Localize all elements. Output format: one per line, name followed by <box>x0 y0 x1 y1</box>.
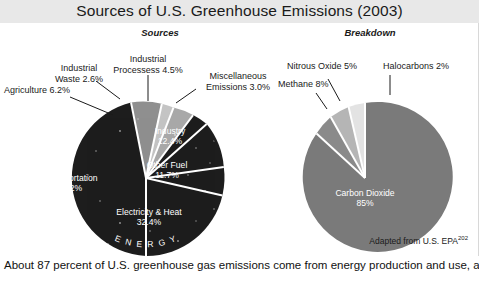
slice-label-other-fuel: Other Fuel 11.7% <box>136 160 198 180</box>
attribution-footnote-number: 202 <box>458 235 468 241</box>
callout-halocarbons: Halocarbons 2% <box>370 61 462 72</box>
chart-panel: Sources Breakdown <box>0 23 479 256</box>
slice-label-industry-value: 12.4% <box>140 136 200 146</box>
attribution: Adapted from U.S. EPA202 <box>369 235 468 246</box>
callout-industrial-processes-line2: Processess 4.5% <box>108 65 188 76</box>
slice-label-other-fuel-value: 11.7% <box>136 170 198 180</box>
slice-label-transportation-name: Transportation <box>42 173 97 183</box>
slice-label-industry: Industry 12.4% <box>140 126 200 146</box>
slice-label-carbon-dioxide: Carbon Dioxide 85% <box>320 188 410 208</box>
callout-industrial-waste: Industrial Waste 2.6% <box>44 63 114 84</box>
slice-label-industry-name: Industry <box>155 126 186 136</box>
callout-methane: Methane 8% <box>278 79 329 90</box>
slice-label-transportation: Transportation 27.2% <box>30 173 110 193</box>
slice-label-electricity-heat-value: 32.4% <box>98 217 200 227</box>
breakdown-pie <box>303 102 453 252</box>
slice-label-transportation-value: 27.2% <box>30 183 110 193</box>
figure-caption: About 87 percent of U.S. greenhouse gas … <box>0 258 479 273</box>
figure-container: Sources of U.S. Greenhouse Emissions (20… <box>0 0 479 281</box>
slice-label-electricity-heat-name: Electricity & Heat <box>116 207 181 217</box>
callout-industrial-waste-line1: Industrial <box>44 63 114 74</box>
pie-charts-graphic: E N E R G Y <box>0 23 479 256</box>
callout-miscellaneous-line2: Emissions 3.0% <box>196 82 280 93</box>
slice-label-carbon-dioxide-name: Carbon Dioxide <box>335 188 394 198</box>
callout-industrial-processes: Industrial Processess 4.5% <box>108 54 188 75</box>
slice-label-carbon-dioxide-value: 85% <box>320 198 410 208</box>
slice-label-electricity-heat: Electricity & Heat 32.4% <box>98 207 200 227</box>
page-title: Sources of U.S. Greenhouse Emissions (20… <box>0 2 479 20</box>
callout-nitrous-oxide: Nitrous Oxide 5% <box>276 61 368 72</box>
attribution-text: Adapted from U.S. EPA <box>369 236 458 246</box>
callout-agriculture: Agriculture 6.2% <box>4 85 70 96</box>
callout-miscellaneous-line1: Miscellaneous <box>196 71 280 82</box>
callout-industrial-waste-line2: Waste 2.6% <box>44 74 114 85</box>
callout-miscellaneous: Miscellaneous Emissions 3.0% <box>196 71 280 92</box>
slice-label-other-fuel-name: Other Fuel <box>147 160 188 170</box>
callout-industrial-processes-line1: Industrial <box>108 54 188 65</box>
